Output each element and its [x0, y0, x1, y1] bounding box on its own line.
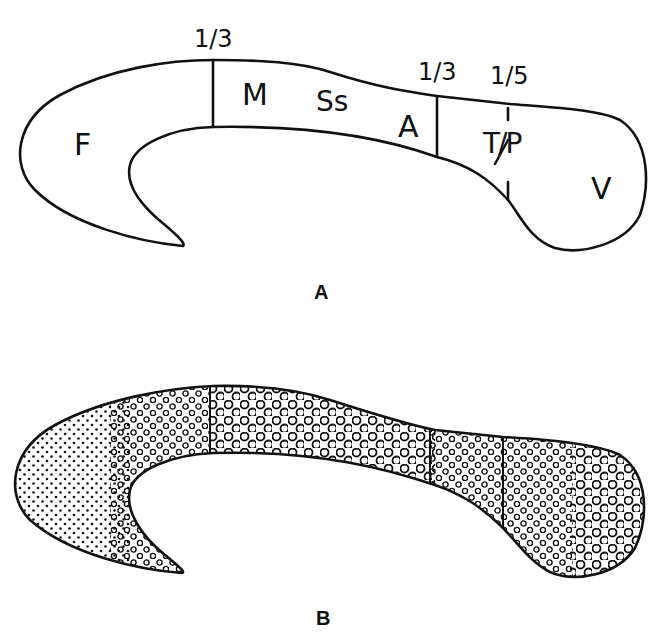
boundary-label-3: 1/5	[490, 64, 529, 88]
panel-label-b: B	[316, 608, 330, 628]
boundary-label-1: 1/3	[194, 27, 233, 51]
region-label-f: F	[74, 130, 91, 160]
region-label-tp: T/P	[483, 130, 520, 158]
panel-label-a: A	[314, 282, 328, 302]
region-label-v: V	[591, 174, 612, 204]
boundary-label-2: 1/3	[418, 60, 457, 84]
panel-b-stipple-fill	[0, 380, 669, 580]
region-label-ss: Ss	[316, 88, 348, 116]
region-label-m: M	[242, 80, 268, 110]
region-label-a: A	[398, 112, 419, 142]
